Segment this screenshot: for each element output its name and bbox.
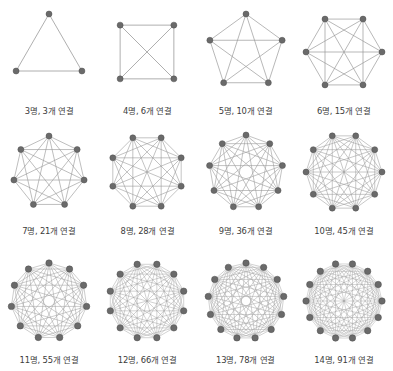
graph-edge — [21, 136, 49, 150]
node-group — [11, 133, 87, 207]
graph-cell-k12: 12명, 66개 연결 — [98, 251, 196, 371]
graph-node — [353, 133, 359, 139]
graph-node — [11, 282, 17, 288]
graph-node — [171, 271, 177, 277]
graph-caption-k12: 12명, 66개 연결 — [118, 353, 177, 365]
graph-node — [260, 264, 266, 270]
graph-node — [360, 16, 366, 22]
graph-node — [265, 80, 271, 86]
graph-node — [154, 261, 160, 267]
graph-node — [379, 298, 385, 304]
graph-node — [75, 323, 81, 329]
graph-node — [317, 268, 323, 274]
graph-node — [57, 334, 63, 340]
graph-edge — [325, 19, 382, 52]
graph-edge — [14, 180, 65, 204]
graph-node — [13, 68, 19, 74]
graph-svg-k6 — [298, 6, 390, 98]
graph-edge — [214, 191, 233, 207]
graph-node — [66, 266, 72, 272]
graph-svg-k3 — [3, 6, 95, 98]
graph-cell-k10: 10명, 45개 연결 — [295, 121, 393, 251]
edge-group — [306, 136, 382, 208]
graph-node — [159, 203, 165, 209]
graph-edge — [113, 138, 161, 186]
node-group — [206, 11, 284, 86]
graph-node — [303, 298, 309, 304]
graph-node — [171, 22, 177, 28]
graph-edge — [313, 150, 382, 172]
graph-edge — [313, 194, 332, 208]
graph-node — [118, 76, 124, 82]
graph-node — [280, 293, 286, 299]
edge-group — [16, 14, 82, 71]
graph-caption-k3: 3명, 3개 연결 — [25, 104, 74, 116]
graph-node — [74, 147, 80, 153]
graph-caption-k4: 4명, 6개 연결 — [123, 104, 172, 116]
graph-node — [154, 335, 160, 341]
graph-cell-k11: 11명, 55개 연결 — [0, 251, 98, 371]
graph-edge — [210, 296, 283, 314]
graph-edge — [335, 264, 378, 285]
graph-edge — [335, 264, 367, 331]
graph-edge — [375, 150, 382, 172]
complete-graph-k13 — [200, 255, 292, 347]
edge-group — [306, 19, 382, 85]
graph-node — [379, 169, 385, 175]
graph-edge — [246, 135, 270, 144]
graph-node — [46, 133, 52, 139]
graph-node — [107, 288, 113, 294]
graph-edge — [306, 52, 325, 85]
graph-edge — [16, 14, 49, 71]
graph-node — [171, 76, 177, 82]
edge-group — [14, 136, 84, 204]
graph-node — [31, 201, 37, 207]
graph-edge — [133, 138, 181, 186]
complete-graph-k8 — [101, 126, 193, 218]
graph-node — [179, 155, 185, 161]
graph-edge — [310, 317, 353, 338]
graph-node — [322, 82, 328, 88]
edge-group — [121, 25, 175, 79]
graph-node — [181, 308, 187, 314]
graph-node — [134, 335, 140, 341]
graph-node — [205, 293, 211, 299]
complete-graph-k10 — [298, 126, 390, 218]
graph-node — [211, 276, 217, 282]
graph-svg-k14 — [298, 255, 390, 347]
graph-edge — [306, 52, 363, 85]
graph-svg-k4 — [101, 6, 193, 98]
graph-edge — [306, 150, 313, 172]
graph-edge — [29, 269, 78, 326]
graph-edge — [223, 14, 245, 83]
graph-node — [329, 205, 335, 211]
graph-node — [230, 204, 236, 210]
graph-caption-k10: 10명, 45개 연결 — [314, 224, 373, 236]
graph-node — [110, 155, 116, 161]
graph-edge — [208, 296, 281, 314]
graph-edge — [113, 138, 133, 158]
graph-edge — [313, 136, 332, 194]
graph-node — [206, 163, 212, 169]
graph-edge — [21, 150, 84, 180]
graph-node — [179, 183, 185, 189]
graph-node — [279, 37, 285, 43]
graph-edge — [49, 14, 82, 71]
graph-node — [207, 311, 213, 317]
graph-caption-k7: 7명, 21개 연결 — [22, 224, 76, 236]
graph-edge — [332, 136, 374, 194]
graph-node — [275, 188, 281, 194]
complete-graph-k11 — [3, 255, 95, 347]
graph-edge — [15, 285, 87, 306]
complete-graph-k6 — [298, 6, 390, 98]
graph-node — [252, 335, 258, 341]
graph-caption-k8: 8명, 28개 연결 — [120, 224, 174, 236]
graph-node — [306, 281, 312, 287]
graph-node — [360, 82, 366, 88]
complete-graph-k7 — [3, 126, 95, 218]
graph-edge — [258, 191, 277, 207]
graph-edge — [222, 144, 282, 166]
graph-node — [130, 203, 136, 209]
graph-grid: 3명, 3개 연결4명, 6개 연결5명, 10개 연결6명, 15개 연결7명… — [0, 0, 393, 371]
graph-node — [206, 37, 212, 43]
